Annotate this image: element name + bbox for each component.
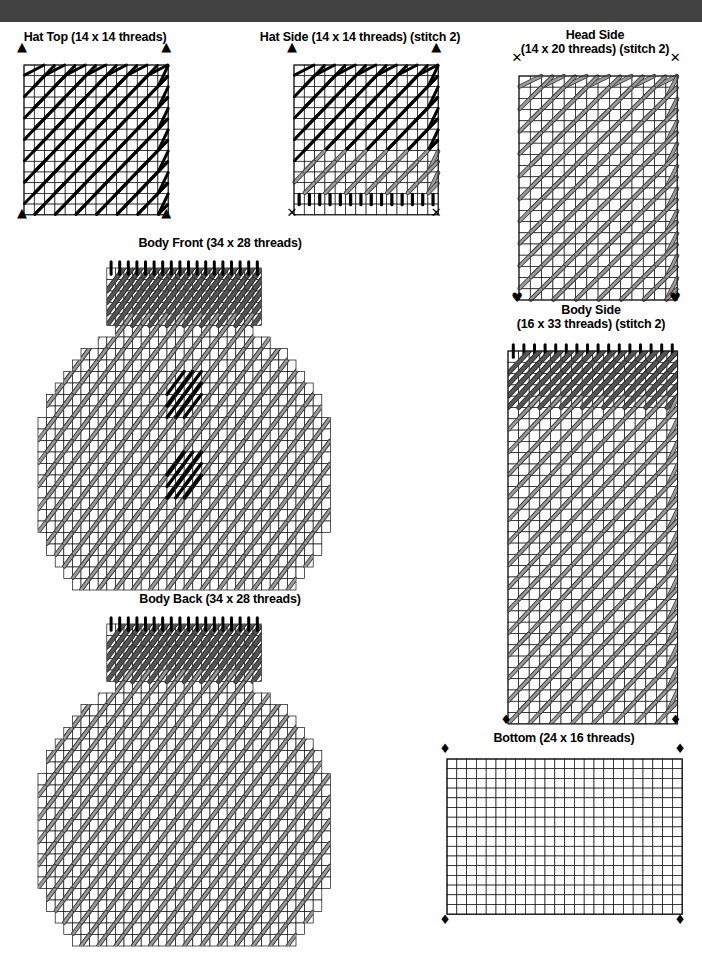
panel-body-front: Body Front (34 x 28 threads) <box>20 236 420 578</box>
stitch-canvas <box>506 339 680 728</box>
chart-body-back <box>20 612 420 934</box>
corner-mark-top-right: ▲ <box>429 42 443 52</box>
panel-hat-side: Hat Side (14 x 14 threads) (stitch 2) ▲▲… <box>255 30 465 205</box>
panel-title-bottom: Bottom (24 x 16 threads) <box>430 731 698 745</box>
chart-body-front <box>20 256 420 578</box>
corner-mark-bottom-right: ♦ <box>669 715 683 725</box>
corner-mark-top-left: ✕ <box>510 53 524 63</box>
header-bar <box>0 0 702 22</box>
chart-hat-side: ▲▲✕✕ <box>255 55 465 205</box>
stitch-canvas <box>517 66 679 304</box>
panel-bottom: Bottom (24 x 16 threads) ♦♦♦♦ <box>430 731 698 912</box>
corner-mark-top-left: ♦ <box>438 744 452 754</box>
stitch-canvas <box>22 55 170 219</box>
corner-mark-top-right: ▲ <box>159 42 173 52</box>
corner-mark-bottom-right: ✕ <box>429 208 443 218</box>
corner-mark-top-right: ♦ <box>673 744 687 754</box>
corner-mark-bottom-left: ▲ <box>15 208 29 218</box>
stitch-canvas <box>35 256 333 594</box>
corner-mark-bottom-left: ✕ <box>285 208 299 218</box>
panel-hat-top: Hat Top (14 x 14 threads) ▲▲▲▲ <box>0 30 190 205</box>
corner-mark-bottom-left: ♦ <box>499 715 513 725</box>
panel-title-head-side-l2: (14 x 20 threads) (stitch 2) <box>495 42 695 56</box>
chart-head-side: ✕✕♥♥ <box>495 66 695 290</box>
panel-body-side: Body Side (16 x 33 threads) (stitch 2) ♦… <box>488 303 694 712</box>
chart-bottom: ♦♦♦♦ <box>430 757 698 912</box>
corner-mark-top-left: ▲ <box>15 42 29 52</box>
panel-title-body-side-l1: Body Side <box>488 303 694 317</box>
corner-mark-bottom-left: ♥ <box>510 293 524 303</box>
corner-mark-bottom-left: ♦ <box>438 915 452 925</box>
stitch-canvas <box>292 55 440 219</box>
panel-head-side: Head Side (14 x 20 threads) (stitch 2) ✕… <box>495 28 695 290</box>
panel-title-body-side-l2: (16 x 33 threads) (stitch 2) <box>488 317 694 331</box>
corner-mark-top-right: ✕ <box>668 53 682 63</box>
stitch-canvas <box>445 757 684 916</box>
corner-mark-top-left: ▲ <box>285 42 299 52</box>
chart-body-side: ♦♦ <box>488 339 694 712</box>
panel-title-head-side-l1: Head Side <box>495 28 695 42</box>
stitch-canvas <box>35 612 333 950</box>
panel-body-back: Body Back (34 x 28 threads) <box>20 592 420 934</box>
panel-title-body-front: Body Front (34 x 28 threads) <box>20 236 420 250</box>
panel-title-body-back: Body Back (34 x 28 threads) <box>20 592 420 606</box>
corner-mark-bottom-right: ▲ <box>159 208 173 218</box>
chart-hat-top: ▲▲▲▲ <box>0 55 190 205</box>
corner-mark-bottom-right: ♦ <box>673 915 687 925</box>
corner-mark-bottom-right: ♥ <box>668 293 682 303</box>
